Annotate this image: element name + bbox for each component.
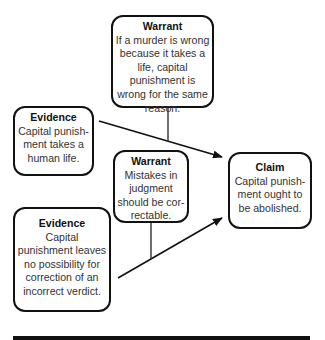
evidence-2-box: Evidence Capital punishment leaves no po… xyxy=(13,207,111,312)
claim-title: Claim xyxy=(232,161,308,175)
warrant-top-text: If a murder is wrong because it takes a … xyxy=(115,34,210,116)
warrant-top-box: Warrant If a murder is wrong because it … xyxy=(111,15,214,108)
warrant-mid-title: Warrant xyxy=(117,155,185,169)
evidence-1-box: Evidence Capital punish-ment takes a hum… xyxy=(13,106,94,176)
evidence-1-text: Capital punish-ment takes a human life. xyxy=(17,125,90,166)
bottom-rule xyxy=(13,336,310,340)
warrant-mid-box: Warrant Mistakes in judgment should be c… xyxy=(113,150,189,223)
evidence-1-title: Evidence xyxy=(17,111,90,125)
arrow-evidence2-to-claim xyxy=(118,218,222,278)
evidence-2-title: Evidence xyxy=(17,217,107,231)
warrant-top-title: Warrant xyxy=(115,20,210,34)
claim-box: Claim Capital punish-ment ought to be ab… xyxy=(228,152,312,229)
claim-text: Capital punish-ment ought to be abolishe… xyxy=(232,175,308,216)
evidence-2-text: Capital punishment leaves no possibility… xyxy=(17,231,107,299)
warrant-mid-text: Mistakes in judgment should be cor-recta… xyxy=(117,169,185,223)
